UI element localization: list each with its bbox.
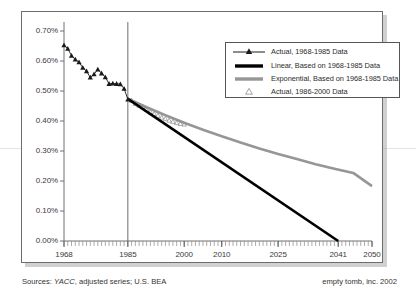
line-with-filled-triangle-icon bbox=[231, 45, 267, 59]
legend-label: Linear, Based on 1968-1985 Data bbox=[271, 61, 380, 70]
x-axis-tick-label: 2000 bbox=[164, 250, 204, 259]
sources-italic: YACC bbox=[54, 277, 75, 286]
x-axis-tick-label: 2025 bbox=[258, 250, 298, 259]
y-axis-tick-label: 0.70% bbox=[22, 26, 58, 35]
sources-note: Sources: YACC, adjusted series; U.S. BEA bbox=[22, 277, 166, 286]
sources-suffix: , adjusted series; U.S. BEA bbox=[75, 277, 167, 286]
chart-figure: Actual, 1968-1985 Data Linear, Based on … bbox=[0, 0, 416, 304]
y-axis-tick-label: 0.30% bbox=[22, 146, 58, 155]
open-triangle-icon bbox=[231, 85, 267, 99]
chart-frame: Actual, 1968-1985 Data Linear, Based on … bbox=[21, 11, 383, 263]
x-axis-tick-label: 2050 bbox=[352, 250, 392, 259]
legend-item-exponential: Exponential, Based on 1968-1985 Data bbox=[226, 72, 399, 86]
legend-item-actual-1986-2000: Actual, 1986-2000 Data bbox=[226, 85, 399, 99]
legend-label: Actual, 1968-1985 Data bbox=[271, 47, 348, 56]
thick-black-line-icon bbox=[231, 59, 267, 73]
y-axis-tick-label: 0.40% bbox=[22, 116, 58, 125]
y-axis-tick-label: 0.00% bbox=[22, 236, 58, 245]
legend-item-linear: Linear, Based on 1968-1985 Data bbox=[226, 59, 399, 73]
x-axis-tick-label: 1985 bbox=[108, 250, 148, 259]
x-axis-tick-label: 2010 bbox=[202, 250, 242, 259]
sources-prefix: Sources: bbox=[22, 277, 54, 286]
legend-label: Exponential, Based on 1968-1985 Data bbox=[271, 74, 398, 83]
y-axis-tick-label: 0.50% bbox=[22, 86, 58, 95]
legend-item-actual-1968-1985: Actual, 1968-1985 Data bbox=[226, 45, 399, 59]
y-axis-tick-label: 0.10% bbox=[22, 206, 58, 215]
legend-label: Actual, 1986-2000 Data bbox=[271, 87, 348, 96]
x-axis-tick-label: 1968 bbox=[44, 250, 84, 259]
y-axis-tick-label: 0.20% bbox=[22, 176, 58, 185]
thick-gray-line-icon bbox=[231, 72, 267, 86]
chart-legend: Actual, 1968-1985 Data Linear, Based on … bbox=[225, 42, 400, 98]
publisher-note: empty tomb, inc. 2002 bbox=[322, 277, 397, 286]
y-axis-tick-label: 0.60% bbox=[22, 56, 58, 65]
